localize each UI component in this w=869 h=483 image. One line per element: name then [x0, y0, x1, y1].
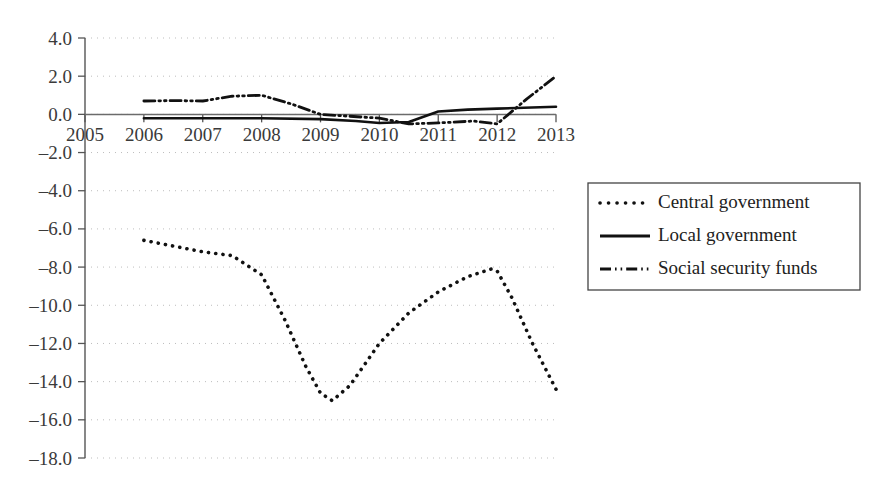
legend-label: Central government: [658, 191, 810, 212]
y-tick-label: 0.0: [48, 104, 72, 125]
y-tick-label: –6.0: [38, 218, 72, 239]
y-tick-label: 4.0: [48, 28, 72, 49]
line-chart-svg: 4.02.00.0–2.0–4.0–6.0–8.0–10.0–12.0–14.0…: [0, 0, 869, 483]
x-tick-label: 2010: [360, 124, 398, 145]
y-tick-label: 2.0: [48, 66, 72, 87]
chart-legend: Central governmentLocal governmentSocial…: [588, 183, 860, 290]
x-tick-label: 2013: [537, 124, 575, 145]
chart-figure: 4.02.00.0–2.0–4.0–6.0–8.0–10.0–12.0–14.0…: [0, 0, 869, 483]
y-tick-label: –18.0: [28, 448, 72, 469]
x-tick-label: 2009: [302, 124, 340, 145]
y-tick-label: –10.0: [28, 295, 72, 316]
y-tick-label: –4.0: [38, 180, 72, 201]
x-tick-label: 2008: [243, 124, 281, 145]
x-tick-label: 2012: [478, 124, 516, 145]
series-line-social-security-funds: [144, 76, 556, 124]
y-tick-label: –14.0: [28, 371, 72, 392]
y-tick-label: –8.0: [38, 257, 72, 278]
y-axis-ticks: 4.02.00.0–2.0–4.0–6.0–8.0–10.0–12.0–14.0…: [28, 28, 85, 469]
y-tick-label: –12.0: [28, 333, 72, 354]
legend-label: Social security funds: [658, 257, 817, 278]
series-line-central-government: [144, 240, 556, 400]
x-tick-label: 2011: [420, 124, 457, 145]
legend-label: Local government: [658, 224, 797, 245]
x-tick-label: 2006: [125, 124, 163, 145]
y-tick-label: –16.0: [28, 409, 72, 430]
x-tick-label: 2007: [184, 124, 222, 145]
